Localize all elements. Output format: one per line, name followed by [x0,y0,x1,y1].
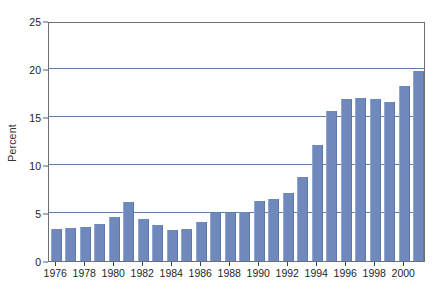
x-axis-tick-label: 1988 [218,267,241,279]
y-axis-tick-label: 15 [29,112,41,124]
bar [399,86,410,261]
bar [109,217,120,261]
x-axis-tick-label: 1998 [363,267,386,279]
y-axis-tick-label: 25 [29,16,41,28]
x-axis-tick-label: 1984 [160,267,183,279]
bar [138,219,149,261]
bar [370,99,381,261]
bar [196,222,207,261]
bar-chart: Percent 0510152025 197619781980198219841… [0,0,437,289]
bar [239,212,250,261]
bar [254,201,265,261]
x-axis-tick-label: 1976 [44,267,67,279]
x-axis-tick-mark [171,262,172,266]
x-axis-tick-mark [403,262,404,266]
x-axis-tick-mark [258,262,259,266]
x-axis-tick-label: 1986 [189,267,212,279]
x-axis-tick-mark [142,262,143,266]
plot-area [48,22,425,262]
bar [355,98,366,261]
x-axis-tick-mark [345,262,346,266]
bar [326,111,337,261]
x-axis-tick-label: 1992 [276,267,299,279]
x-axis-tick-mark [55,262,56,266]
bar [181,229,192,261]
y-axis-tick-label: 20 [29,64,41,76]
y-axis-tick-label: 10 [29,160,41,172]
bar [152,225,163,261]
y-axis-ticks: 0510152025 [0,0,48,289]
x-axis-tick-mark [229,262,230,266]
x-axis-tick-label: 2000 [392,267,415,279]
bar [312,145,323,261]
x-axis-tick-label: 1990 [247,267,270,279]
x-axis-tick-mark [84,262,85,266]
bar-series [49,23,424,261]
x-axis-tick-label: 1996 [334,267,357,279]
bar [268,199,279,261]
x-axis-tick-mark [113,262,114,266]
bar [210,213,221,261]
x-axis-tick-label: 1982 [131,267,154,279]
x-axis-tick-mark [200,262,201,266]
bar [341,99,352,261]
y-axis-tick-label: 5 [35,208,41,220]
x-axis-tick-label: 1978 [73,267,96,279]
bar [94,224,105,261]
bar [225,213,236,261]
x-axis-tick-label: 1994 [305,267,328,279]
bar [167,230,178,261]
x-axis-tick-mark [287,262,288,266]
bar [80,227,91,261]
x-axis-tick-label: 1980 [102,267,125,279]
bar [51,229,62,261]
bar [297,177,308,261]
y-axis-tick-label: 0 [35,256,41,268]
bar [65,228,76,261]
x-axis-tick-mark [316,262,317,266]
bar [123,202,134,261]
bar [283,193,294,261]
bar [413,71,424,261]
bar [384,102,395,261]
x-axis-ticks: 1976197819801982198419861988199019921994… [48,262,425,289]
x-axis-tick-mark [374,262,375,266]
